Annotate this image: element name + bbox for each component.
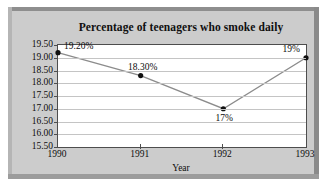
gridline [58,134,306,135]
x-axis-tick-mark [140,144,141,149]
gridline [58,96,306,97]
x-axis-tick-label: 1990 [34,149,80,159]
gridline [58,58,306,59]
y-axis-tick-mark [54,134,58,135]
y-axis-tick-mark [54,71,58,72]
panel-bevel-top [8,7,319,11]
data-point-label: 18.30% [128,62,157,72]
panel-bevel-bottom [8,174,319,179]
y-axis-tick-mark [54,109,58,110]
data-point-label: 19.20% [64,41,93,51]
y-axis-tick-label: 17.00 [19,103,53,113]
y-axis-tick-mark [54,122,58,123]
y-axis-tick-mark [54,58,58,59]
y-axis-tick-labels: 19.5019.0018.5018.0017.5017.0016.5016.00… [19,44,53,146]
x-axis-tick-label: 1992 [199,149,245,159]
gridline [58,83,306,84]
y-axis-tick-mark [54,147,58,148]
data-point-label: 19% [283,44,300,54]
y-axis-tick-label: 18.50 [19,65,53,75]
x-axis-title: Year [57,163,305,173]
x-axis-tick-label: 1991 [117,149,163,159]
gridline [58,122,306,123]
y-axis-tick-mark [54,96,58,97]
data-point-label: 17% [216,113,233,123]
y-axis-tick-label: 18.00 [19,77,53,87]
gridline [58,71,306,72]
y-axis-tick-label: 17.50 [19,90,53,100]
y-axis-tick-label: 19.50 [19,39,53,49]
data-point-marker [138,73,143,78]
chart-figure: Percentage of teenagers who smoke daily … [0,0,333,191]
x-axis-tick-mark [222,144,223,149]
x-axis-tick-labels: 1990199119921993 [57,149,305,163]
y-axis-tick-mark [54,83,58,84]
y-axis-tick-label: 16.50 [19,116,53,126]
y-axis-tick-label: 19.00 [19,52,53,62]
y-axis-tick-label: 16.00 [19,128,53,138]
gridline [58,109,306,110]
panel-bevel-left [8,7,12,179]
x-axis-tick-label: 1993 [282,149,328,159]
plot-area: 19.20%18.30%17%19% [57,44,307,148]
chart-title: Percentage of teenagers who smoke daily [46,21,316,33]
series-polyline [58,53,306,109]
data-point-marker [55,50,60,55]
y-axis-tick-mark [54,45,58,46]
